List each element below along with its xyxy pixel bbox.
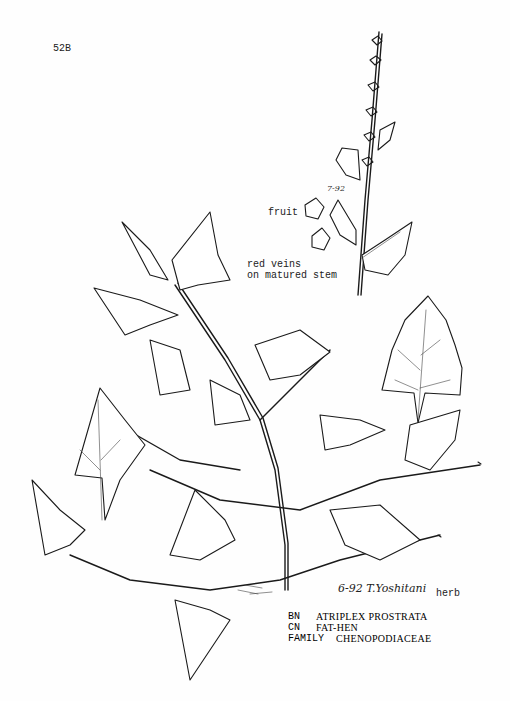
family-name: CHENOPODIACEAE bbox=[336, 633, 431, 644]
plant-illustration bbox=[0, 0, 510, 701]
botanical-plate: 52B bbox=[0, 0, 510, 701]
stem-note-line-2: on matured stem bbox=[247, 270, 337, 282]
artist-signature: 6-92 T.Yoshitani bbox=[338, 582, 426, 595]
habit-label: herb bbox=[436, 588, 460, 600]
label-row-cn: CN FAT-HEN bbox=[288, 622, 431, 633]
fruit-label: fruit bbox=[268, 207, 298, 219]
flowering-spike bbox=[330, 32, 412, 295]
label-key: FAMILY bbox=[288, 633, 336, 644]
label-key: BN bbox=[288, 611, 316, 622]
label-row-bn: BN ATRIPLEX PROSTRATA bbox=[288, 611, 431, 622]
common-name: FAT-HEN bbox=[316, 622, 358, 633]
label-key: CN bbox=[288, 622, 316, 633]
main-herb bbox=[32, 212, 481, 680]
label-row-family: FAMILY CHENOPODIACEAE bbox=[288, 633, 431, 644]
single-leaf bbox=[382, 296, 462, 423]
specimen-label: BN ATRIPLEX PROSTRATA CN FAT-HEN FAMILY … bbox=[288, 611, 431, 644]
stem-date: 7-92 bbox=[327, 184, 345, 193]
fruit-bracts bbox=[305, 198, 330, 250]
botanical-name: ATRIPLEX PROSTRATA bbox=[316, 611, 428, 622]
